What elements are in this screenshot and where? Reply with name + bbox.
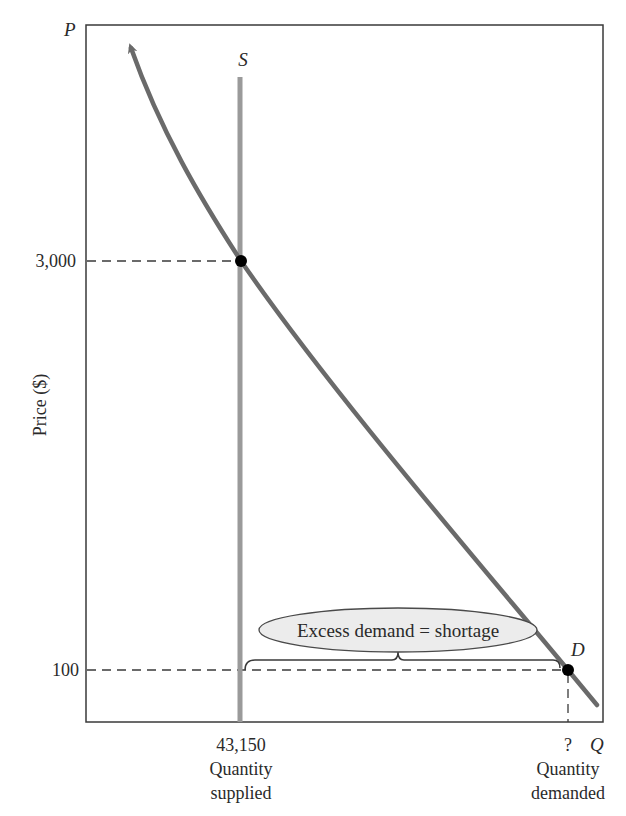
- x-sublabel-demanded-1: Quantity: [537, 759, 600, 779]
- y-axis-letter: P: [63, 19, 76, 40]
- demand-label: D: [570, 639, 585, 660]
- x-axis-letter: Q: [590, 734, 604, 755]
- demand-curve: [131, 48, 597, 705]
- x-sublabel-supplied-1: Quantity: [210, 759, 273, 779]
- shortage-brace: [245, 652, 560, 670]
- x-tick-43150: 43,150: [216, 735, 266, 755]
- x-tick-unknown: ?: [564, 735, 572, 755]
- y-axis-title: Price ($): [30, 374, 51, 436]
- chart-figure: P Q Price ($) 3,000 100 S D Excess deman…: [0, 0, 626, 816]
- y-tick-100: 100: [52, 660, 79, 680]
- x-sublabel-supplied-2: supplied: [211, 783, 272, 803]
- chart-svg: P Q Price ($) 3,000 100 S D Excess deman…: [0, 0, 626, 816]
- equilibrium-point-3000: [235, 255, 247, 267]
- annotation-text: Excess demand = shortage: [297, 620, 499, 641]
- demand-point-100: [562, 664, 574, 676]
- supply-label: S: [238, 49, 248, 70]
- x-sublabel-demanded-2: demanded: [531, 783, 605, 803]
- y-tick-3000: 3,000: [36, 251, 77, 271]
